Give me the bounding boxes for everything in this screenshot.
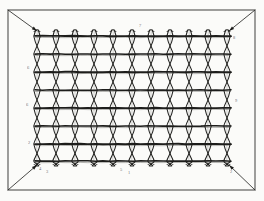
reference-numeral: 3	[46, 170, 48, 174]
reference-numeral: 6	[26, 103, 28, 107]
reference-numeral: 7	[139, 24, 141, 28]
reference-numeral: 4	[39, 167, 41, 171]
reference-numeral: 1	[128, 171, 130, 175]
reference-numeral: 5	[120, 168, 122, 172]
reference-numeral: 9	[235, 99, 237, 103]
reference-numeral: 2	[28, 141, 30, 145]
reference-numeral: 8	[233, 36, 235, 40]
reference-numeral: 6	[27, 66, 29, 70]
figure-plate: 66243517892	[0, 0, 264, 201]
reference-numeral: 2	[230, 170, 232, 174]
horizontal-wires	[35, 36, 231, 163]
